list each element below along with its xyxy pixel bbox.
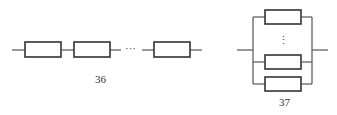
ellipsis-horizontal: ··· xyxy=(125,42,136,54)
element-box-1 xyxy=(25,42,61,57)
element-box-n xyxy=(265,77,301,91)
parallel-diagram: ⋮ 37 xyxy=(237,10,328,108)
circuit-diagrams: ··· 36 ⋮ 37 xyxy=(0,0,337,115)
figure-label-37: 37 xyxy=(279,96,291,108)
figure-label-36: 36 xyxy=(95,73,107,85)
element-box-2 xyxy=(74,42,110,57)
element-box-n xyxy=(154,42,190,57)
element-box-2 xyxy=(265,55,301,69)
ellipsis-vertical: ⋮ xyxy=(278,34,289,46)
element-box-1 xyxy=(265,10,301,24)
series-diagram: ··· 36 xyxy=(12,42,202,85)
